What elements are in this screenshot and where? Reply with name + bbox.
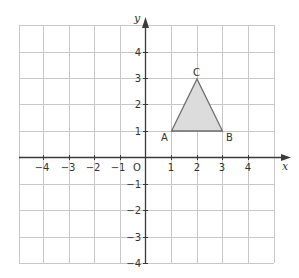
x-tick-label: −3: [61, 162, 76, 173]
y-tick-label: −3: [126, 232, 141, 243]
vertex-label-c: C: [193, 67, 200, 78]
y-tick-label: −4: [126, 258, 141, 269]
y-tick-label: 3: [135, 73, 141, 84]
y-axis-label: y: [133, 12, 141, 25]
grid-lines: [19, 25, 275, 264]
vertex-label-a: A: [161, 132, 168, 143]
x-tick-label: −1: [111, 162, 126, 173]
y-tick-label: 1: [135, 126, 141, 137]
x-tick-label: 4: [245, 162, 251, 173]
y-tick-label: 2: [135, 99, 141, 110]
x-tick-label: 2: [194, 162, 200, 173]
x-tick-labels: −4 −3 −2 −1 1 2 3 4: [35, 162, 252, 173]
vertex-label-b: B: [226, 132, 233, 143]
y-tick-label: −1: [126, 179, 141, 190]
x-tick-label: 3: [219, 162, 225, 173]
y-tick-label: 4: [135, 47, 141, 58]
x-tick-label: −4: [35, 162, 50, 173]
y-axis-arrow-icon: [142, 17, 149, 28]
coordinate-grid-diagram: y x O −4 −3 −2 −1 1 2 3 4 4 3 2 1 −1 −2 …: [0, 0, 299, 278]
axes: [19, 25, 284, 263]
x-tick-label: −2: [86, 162, 101, 173]
y-tick-label: −2: [126, 205, 141, 216]
x-axis-label: x: [282, 160, 289, 173]
x-tick-label: 1: [168, 162, 174, 173]
origin-label: O: [133, 162, 141, 173]
